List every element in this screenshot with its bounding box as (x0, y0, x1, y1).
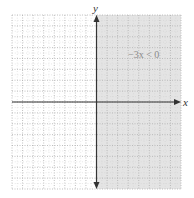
inequality-annotation: −3x < 0 (128, 49, 159, 60)
inequality-graph: y x −3x < 0 (0, 0, 194, 198)
x-axis-label: x (182, 96, 188, 108)
y-axis-label: y (92, 2, 98, 14)
